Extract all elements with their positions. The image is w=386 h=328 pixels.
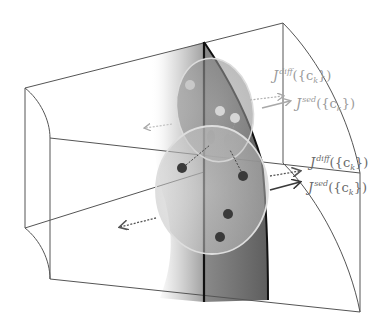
- lower-sed-flux-arrow: [270, 182, 300, 190]
- lower-diff-flux-arrow: [270, 171, 300, 176]
- particle: [215, 106, 225, 116]
- upper-sed-flux-arrow: [262, 101, 290, 108]
- lower-left-backflow-arrow: [120, 218, 156, 227]
- upper-diff-flux-arrow: [250, 96, 283, 100]
- particle: [223, 209, 233, 219]
- lower-particle-cluster: [156, 126, 268, 254]
- particle: [215, 232, 225, 242]
- particle: [238, 171, 248, 181]
- particle: [230, 113, 240, 123]
- upper-diff-flux-label: Jdiff({ck}): [273, 68, 331, 85]
- lower-diff-flux-label: Jdiff({ck}): [310, 155, 368, 172]
- particle: [185, 80, 195, 90]
- particle: [177, 163, 187, 173]
- lower-sed-flux-label: Jsed({ck}): [308, 180, 367, 197]
- upper-sed-flux-label: Jsed({ck}): [296, 96, 355, 113]
